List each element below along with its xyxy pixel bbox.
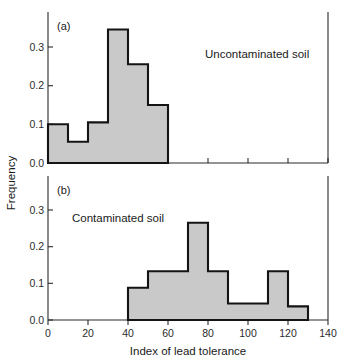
histogram-figure: Frequency 0.0 0.1 0.2 0.3: [0, 0, 348, 361]
panel-a: 0.0 0.1 0.2 0.3 (a) Uncontaminated soil: [29, 12, 328, 169]
panel-a-histogram-bars: [48, 30, 168, 164]
panel-b-x-tick-label-1: 20: [82, 327, 94, 339]
panel-b-x-tick-label-7: 140: [319, 327, 337, 339]
panel-b-x-tick-label-3: 60: [162, 327, 174, 339]
figure-container: Frequency 0.0 0.1 0.2 0.3: [0, 0, 348, 361]
panel-b-y-tick-label-3: 0.3: [29, 204, 44, 216]
panel-b-x-tick-label-0: 0: [45, 327, 51, 339]
panel-b: 0.0 0.1 0.2 0.3 0 20 40 60 80 100 120 14: [29, 176, 337, 339]
panel-a-y-tick-label-2: 0.2: [29, 79, 44, 91]
panel-a-tag: (a): [57, 20, 70, 32]
panel-b-y-tick-label-1: 0.1: [29, 277, 44, 289]
panel-b-y-tick-label-2: 0.2: [29, 240, 44, 252]
panel-b-x-tick-label-4: 80: [202, 327, 214, 339]
panel-b-tag: (b): [57, 184, 70, 196]
panel-b-x-tick-label-6: 120: [279, 327, 297, 339]
panel-a-y-tick-label-3: 0.3: [29, 41, 44, 53]
panel-b-x-tick-label-2: 40: [122, 327, 134, 339]
panel-a-series-label: Uncontaminated soil: [205, 48, 309, 60]
panel-b-y-ticks: [48, 210, 53, 320]
y-axis-title: Frequency: [5, 156, 17, 211]
panel-b-histogram-bars: [128, 223, 308, 320]
panel-b-series-label: Contaminated soil: [72, 212, 164, 224]
panel-b-y-tick-label-0: 0.0: [29, 314, 44, 326]
x-axis-title: Index of lead tolerance: [130, 345, 246, 357]
panel-a-y-tick-label-1: 0.1: [29, 118, 44, 130]
panel-b-x-tick-label-5: 100: [239, 327, 257, 339]
panel-a-y-tick-label-0: 0.0: [29, 157, 44, 169]
